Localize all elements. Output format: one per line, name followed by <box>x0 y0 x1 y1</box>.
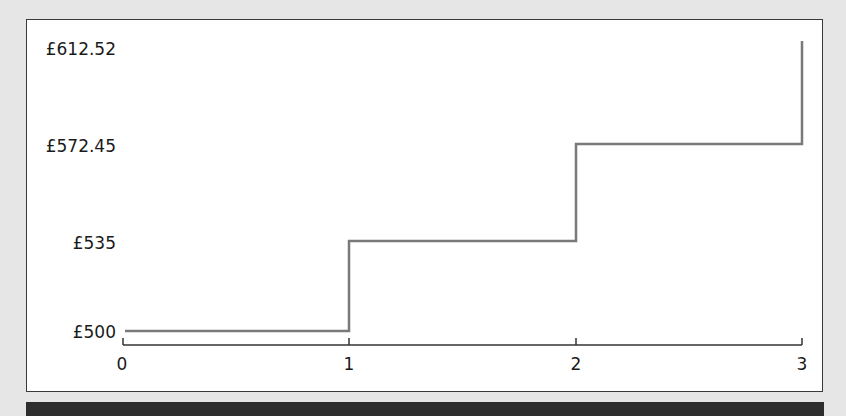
bottom-dark-bar <box>26 402 824 416</box>
x-tick-label-2: 2 <box>571 354 582 374</box>
x-tick-label-0: 0 <box>117 354 128 374</box>
y-tick-label-612: £612.52 <box>46 39 116 59</box>
x-tick-label-3: 3 <box>797 354 808 374</box>
y-tick-label-535: £535 <box>73 233 116 253</box>
step-line-series <box>125 41 802 331</box>
y-tick-label-500: £500 <box>73 322 116 342</box>
x-tick-label-1: 1 <box>344 354 355 374</box>
y-tick-label-572: £572.45 <box>46 136 116 156</box>
